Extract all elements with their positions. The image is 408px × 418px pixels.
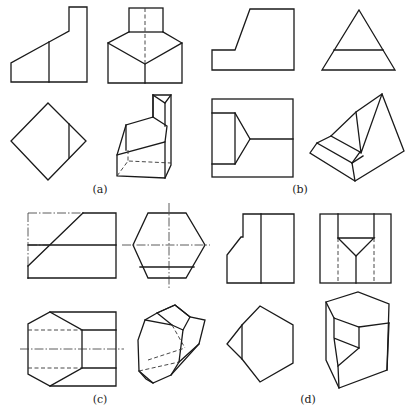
panel-a bbox=[11, 7, 182, 180]
panel-b-isometric-view bbox=[310, 94, 404, 181]
panel-d-side-view bbox=[320, 214, 391, 283]
panel-b-top-view bbox=[212, 99, 293, 177]
caption-b: (b) bbox=[292, 183, 308, 196]
panel-c bbox=[20, 203, 210, 386]
panel-c-top-view bbox=[20, 312, 124, 386]
panel-b-front-view bbox=[212, 9, 294, 70]
panel-c-front-view bbox=[28, 213, 116, 278]
panel-c-isometric-view bbox=[138, 305, 205, 383]
projection-drawing bbox=[0, 0, 408, 418]
caption-d: (d) bbox=[300, 393, 316, 406]
panel-a-front-view bbox=[11, 7, 87, 82]
panel-b bbox=[212, 9, 404, 181]
panel-b-side-view bbox=[322, 10, 395, 70]
caption-a: (a) bbox=[92, 183, 107, 196]
panel-d-top-view bbox=[227, 306, 293, 382]
panel-a-side-view bbox=[108, 8, 182, 83]
panel-a-top-view bbox=[11, 103, 86, 180]
panel-d-isometric-view bbox=[326, 292, 389, 388]
panel-d-front-view bbox=[227, 214, 294, 283]
caption-c: (c) bbox=[93, 393, 108, 406]
panel-d bbox=[227, 214, 391, 388]
panel-a-isometric-view bbox=[117, 95, 171, 178]
panel-c-side-view bbox=[122, 203, 210, 288]
